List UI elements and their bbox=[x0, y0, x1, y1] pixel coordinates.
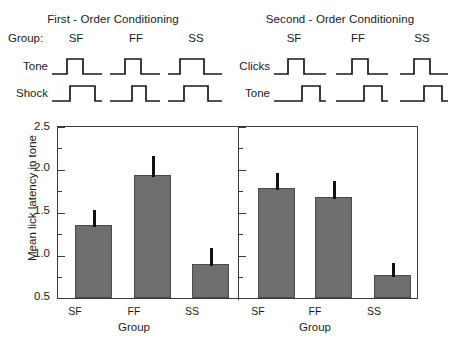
trace-clicks-second-order bbox=[274, 56, 450, 78]
y-tick-label-2-0: 2.0 bbox=[22, 161, 50, 173]
bar-first-order-ss bbox=[192, 264, 229, 298]
divider-tick-major-2-5 bbox=[239, 127, 246, 128]
protocol-title-second-order: Second - Order Conditioning bbox=[234, 13, 446, 25]
divider-tick-major-2-0 bbox=[239, 170, 246, 171]
error-bar-first-order-sf bbox=[93, 210, 96, 227]
protocol-row-label-shock-left: Shock bbox=[0, 87, 48, 99]
protocol-row-label-clicks-right: Clicks bbox=[224, 60, 270, 72]
y-tick-minor-0-75 bbox=[58, 277, 62, 278]
x-tick-label-first-order-ss: SS bbox=[172, 305, 212, 317]
bar-chart-area: Mean lick latency in tone 2.5 2.0 1.5 1.… bbox=[0, 118, 453, 342]
y-tick-major-2-0 bbox=[58, 170, 65, 171]
error-bar-first-order-ff bbox=[152, 156, 155, 177]
protocol-group-label-ss-right: SS bbox=[402, 32, 442, 44]
y-tick-minor-1-75 bbox=[58, 191, 62, 192]
y-tick-major-2-5 bbox=[58, 127, 65, 128]
divider-tick-minor-1-25 bbox=[239, 234, 243, 235]
x-tick-label-second-order-ff: FF bbox=[295, 305, 335, 317]
protocol-group-label-sf-right: SF bbox=[274, 32, 314, 44]
y-tick-label-1-5: 1.5 bbox=[22, 204, 50, 216]
y-tick-major-1-0 bbox=[58, 256, 65, 257]
protocol-group-label-ss-left: SS bbox=[176, 32, 216, 44]
protocol-panel-second-order: Second - Order Conditioning SF FF SS Cli… bbox=[226, 0, 453, 120]
trace-tone-second-order bbox=[274, 83, 450, 105]
x-tick-label-second-order-sf: SF bbox=[238, 305, 278, 317]
protocol-group-label-ff-right: FF bbox=[338, 32, 378, 44]
bar-first-order-sf bbox=[75, 225, 112, 298]
bar-second-order-ss bbox=[374, 275, 411, 298]
x-axis-title-first-order: Group bbox=[94, 321, 174, 333]
group-word-label: Group: bbox=[8, 32, 43, 44]
y-tick-minor-2-25 bbox=[58, 148, 62, 149]
protocol-row-label-tone-right: Tone bbox=[230, 87, 270, 99]
protocol-panel-first-order: First - Order Conditioning Group: SF FF … bbox=[0, 0, 226, 120]
y-tick-label-2-5: 2.5 bbox=[22, 120, 50, 132]
y-tick-label-0-5: 0.5 bbox=[22, 290, 50, 302]
divider-tick-minor-0-75 bbox=[239, 277, 243, 278]
divider-tick-major-1-0 bbox=[239, 256, 246, 257]
error-bar-second-order-ss bbox=[392, 263, 395, 277]
x-axis-title-second-order: Group bbox=[275, 321, 355, 333]
divider-tick-minor-1-75 bbox=[239, 191, 243, 192]
divider-tick-major-1-5 bbox=[239, 213, 246, 214]
panel-divider bbox=[238, 127, 239, 300]
protocol-group-label-ff-left: FF bbox=[116, 32, 156, 44]
error-bar-second-order-ff bbox=[333, 181, 336, 199]
figure-root: First - Order Conditioning Group: SF FF … bbox=[0, 0, 453, 342]
error-bar-second-order-sf bbox=[276, 173, 279, 190]
bar-first-order-ff bbox=[134, 175, 171, 298]
protocol-row-label-tone-left: Tone bbox=[4, 60, 48, 72]
y-tick-major-1-5 bbox=[58, 213, 65, 214]
protocol-title-first-order: First - Order Conditioning bbox=[18, 13, 208, 25]
bar-second-order-ff bbox=[315, 197, 352, 298]
axes-frame bbox=[57, 126, 418, 299]
y-tick-minor-1-25 bbox=[58, 234, 62, 235]
protocol-group-label-sf-left: SF bbox=[56, 32, 96, 44]
x-tick-label-second-order-ss: SS bbox=[354, 305, 394, 317]
x-tick-label-first-order-ff: FF bbox=[114, 305, 154, 317]
y-tick-label-1-0: 1.0 bbox=[22, 247, 50, 259]
x-tick-label-first-order-sf: SF bbox=[55, 305, 95, 317]
trace-tone-first-order bbox=[52, 56, 224, 78]
bar-second-order-sf bbox=[258, 188, 295, 298]
divider-tick-minor-2-25 bbox=[239, 148, 243, 149]
trace-shock-first-order bbox=[52, 83, 224, 105]
error-bar-first-order-ss bbox=[210, 248, 213, 266]
